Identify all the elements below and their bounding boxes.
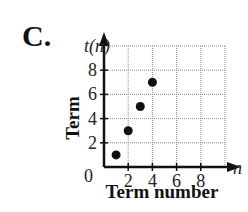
y-tick-label: 6	[88, 84, 97, 104]
x-axis-variable: n	[233, 158, 242, 178]
data-point	[136, 102, 145, 111]
y-tick-label: 4	[88, 109, 97, 129]
y-axis-title: Term	[62, 96, 83, 140]
scatter-chart: 24682468 t(n) n 0 Term number Term	[0, 0, 248, 212]
data-point	[124, 126, 133, 135]
data-point	[148, 78, 157, 87]
grid-lines	[104, 46, 225, 167]
tick-labels: 24682468	[88, 60, 205, 191]
y-tick-label: 2	[88, 133, 97, 153]
x-axis-title: Term number	[106, 181, 219, 202]
y-tick-label: 8	[88, 60, 97, 80]
origin-label: 0	[84, 166, 93, 186]
data-point	[112, 150, 121, 159]
axes	[99, 32, 241, 172]
y-axis-variable: t(n)	[84, 36, 110, 57]
